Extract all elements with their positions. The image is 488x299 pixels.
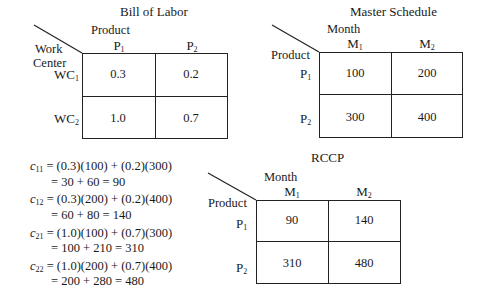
cell-wc2-p2: 0.7 <box>155 111 227 126</box>
column-header-m1: M1 <box>335 36 375 52</box>
row-header-wc2: WC2 <box>54 111 79 127</box>
equation-c22-result: = 200 + 280 = 480 <box>51 274 144 289</box>
month-axis-label: Month <box>327 22 360 37</box>
product-axis-label: Product <box>271 48 310 63</box>
column-header-p1: P1 <box>99 38 139 54</box>
cell-p1-m2: 200 <box>391 66 463 81</box>
cell-wc2-p1: 1.0 <box>82 111 154 126</box>
equation-c22: c22 = (1.0)(200) + (0.7)(400) <box>30 259 172 274</box>
cell-p2-m1: 310 <box>256 256 328 271</box>
equation-c12-result: = 60 + 80 = 140 <box>51 208 132 223</box>
column-header-m2: M2 <box>344 184 384 200</box>
rccp-title: RCCP <box>311 150 344 166</box>
row-header-p1: P1 <box>236 216 247 232</box>
equation-c11: c11 = (0.3)(100) + (0.2)(300) <box>30 159 172 174</box>
equation-c11-result: = 30 + 60 = 90 <box>51 175 125 190</box>
row-header-p1: P1 <box>300 66 311 82</box>
cell-p1-m1: 100 <box>319 66 391 81</box>
month-axis-label: Month <box>264 170 297 185</box>
work-center-axis-label-1: Work <box>35 42 62 57</box>
cell-wc1-p1: 0.3 <box>82 67 154 82</box>
cell-p2-m1: 300 <box>319 110 391 125</box>
bill-of-labor-title: Bill of Labor <box>120 4 188 20</box>
row-header-p2: P2 <box>236 260 247 276</box>
cell-p2-m2: 400 <box>391 110 463 125</box>
column-header-m1: M1 <box>272 184 312 200</box>
cell-p1-m2: 140 <box>328 213 400 228</box>
equation-c12: c12 = (0.3)(200) + (0.2)(400) <box>30 192 172 207</box>
row-header-p2: P2 <box>300 111 311 127</box>
cell-p1-m1: 90 <box>256 213 328 228</box>
column-header-p2: P2 <box>172 38 212 54</box>
equation-c21-result: = 100 + 210 = 310 <box>51 241 144 256</box>
row-header-wc1: WC1 <box>54 67 79 83</box>
equation-c21: c21 = (1.0)(100) + (0.7)(300) <box>30 226 172 241</box>
cell-p2-m2: 480 <box>328 256 400 271</box>
product-axis-label: Product <box>91 23 130 38</box>
column-header-m2: M2 <box>407 36 447 52</box>
cell-wc1-p2: 0.2 <box>155 67 227 82</box>
master-schedule-title: Master Schedule <box>350 4 437 20</box>
product-axis-label: Product <box>208 196 247 211</box>
